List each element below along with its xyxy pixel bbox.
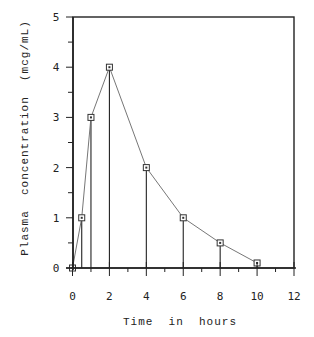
x-tick-label: 6 (180, 290, 187, 303)
y-axis-title: Plasma concentration (mcg/mL) (19, 20, 31, 256)
x-tick-label: 12 (287, 290, 300, 303)
x-axis-title: Time in hours (123, 316, 237, 328)
y-tick-label: 0 (53, 262, 60, 275)
y-tick-label: 4 (53, 61, 60, 74)
y-tick-label: 1 (53, 212, 60, 225)
marker-dot (182, 217, 184, 219)
x-tick-label: 8 (217, 290, 224, 303)
y-tick-label: 3 (53, 111, 60, 124)
y-axis-ticks: 012345 (53, 11, 73, 275)
marker-dot (81, 217, 83, 219)
x-tick-label: 4 (143, 290, 150, 303)
x-tick-label: 2 (106, 290, 113, 303)
marker-dot (108, 66, 110, 68)
x-tick-label: 10 (250, 290, 263, 303)
data-markers (70, 64, 261, 271)
y-tick-label: 2 (53, 162, 60, 175)
y-tick-label: 5 (53, 11, 60, 24)
marker-dot (90, 116, 92, 118)
x-tick-label: 0 (69, 290, 76, 303)
pk-chart: 024681012 012345 Time in hours Plasma co… (0, 0, 314, 337)
drop-lines (82, 67, 257, 268)
marker-dot (219, 242, 221, 244)
concentration-line (73, 67, 258, 268)
marker-dot (145, 167, 147, 169)
